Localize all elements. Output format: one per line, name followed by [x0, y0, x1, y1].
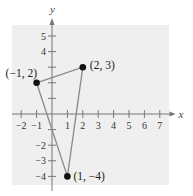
x-axis-arrow-icon	[170, 112, 176, 117]
x-tick-label: −2	[16, 120, 27, 131]
data-point-icon	[80, 64, 87, 71]
y-axis-label: y	[49, 3, 55, 15]
x-axis-label: x	[178, 108, 184, 120]
y-tick-label: 5	[41, 31, 46, 42]
point-label: (1, −4)	[73, 170, 105, 183]
y-axis-arrow-icon	[50, 18, 55, 25]
data-point-icon	[33, 80, 40, 87]
point-label: (2, 3)	[90, 59, 115, 72]
x-tick-label: 2	[80, 120, 85, 131]
triangle-plot: xy −2−11234567−4−3−245 (−1, 2)(2, 3)(1, …	[0, 0, 193, 196]
y-tick-label: −2	[35, 140, 46, 151]
y-tick-label: −3	[35, 155, 46, 166]
x-tick-label: 5	[127, 120, 132, 131]
y-tick-label: 4	[41, 46, 46, 57]
x-tick-label: 3	[96, 120, 101, 131]
x-tick-label: 4	[111, 120, 116, 131]
point-label: (−1, 2)	[6, 67, 38, 80]
x-tick-label: 7	[157, 120, 162, 131]
x-tick-label: −1	[31, 120, 42, 131]
y-tick-label: −4	[35, 171, 46, 182]
x-tick-label: 1	[65, 120, 70, 131]
data-point-icon	[64, 173, 71, 180]
x-tick-label: 6	[142, 120, 147, 131]
